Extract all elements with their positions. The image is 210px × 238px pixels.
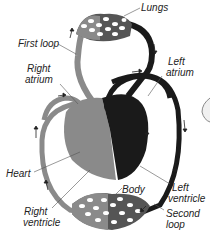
body-capillary-bed [72,193,150,230]
label-left-ventricle-line2: ventricle [168,193,205,204]
label-lungs: Lungs [141,2,168,13]
label-left-ventricle-line1: Left [172,182,189,193]
label-right-ventricle-line2: ventricle [23,217,60,228]
label-second-loop-line2: loop [166,219,185,230]
label-heart: Heart [6,168,30,179]
lungs-capillary-bed [76,14,132,42]
label-body: Body [122,184,145,195]
heart [64,94,148,180]
label-left-atrium-line1: Left [168,56,185,67]
label-right-ventricle-line1: Right [24,206,47,217]
label-left-atrium-line2: atrium [166,67,194,78]
label-second-loop-line1: Second [166,208,200,219]
label-right-atrium-line1: Right [27,63,50,74]
partial-object-right-edge [202,98,210,122]
label-first-loop: First loop [18,38,59,49]
pulmonary-vein-vessel [128,24,152,96]
label-right-atrium-line2: atrium [25,74,53,85]
